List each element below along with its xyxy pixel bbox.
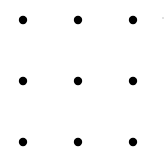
dot-r0-c2 bbox=[129, 16, 137, 24]
dot-r2-c2 bbox=[129, 138, 137, 146]
nine-dot-grid bbox=[0, 0, 166, 167]
dot-r1-c1 bbox=[74, 77, 82, 85]
dot-r2-c0 bbox=[19, 138, 27, 146]
dot-r0-c1 bbox=[74, 16, 82, 24]
dot-r1-c0 bbox=[19, 77, 27, 85]
artifact-speck bbox=[162, 17, 164, 19]
dot-r2-c1 bbox=[74, 138, 82, 146]
dot-r0-c0 bbox=[19, 16, 27, 24]
dot-r1-c2 bbox=[129, 77, 137, 85]
